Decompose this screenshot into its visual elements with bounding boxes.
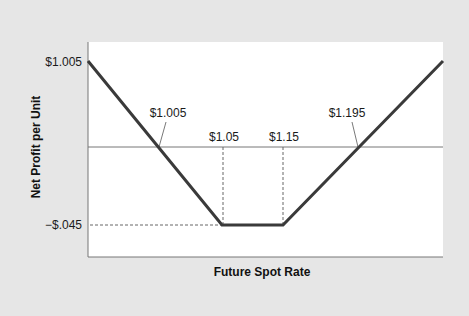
x-axis-title: Future Spot Rate — [214, 265, 311, 279]
strike-put-label: $1.05 — [209, 130, 239, 144]
breakeven-low-label: $1.005 — [150, 106, 187, 120]
y-axis-title: Net Profit per Unit — [29, 96, 43, 199]
strike-call-label: $1.15 — [269, 130, 299, 144]
chart: $1.005 −$.045 $1.005 $1.05 $1.15 $1.195 … — [0, 0, 469, 316]
breakeven-high-label: $1.195 — [329, 106, 366, 120]
y-tick-bottom: −$.045 — [45, 218, 82, 232]
y-tick-top: $1.005 — [45, 55, 82, 69]
